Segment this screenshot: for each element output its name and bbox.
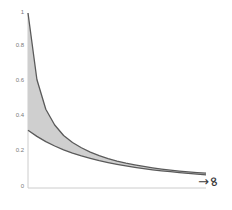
x-axis-infinity-annotation: →∞ <box>198 175 220 188</box>
y-tick-label: 0.4 <box>8 112 24 119</box>
y-tick-label: 0 <box>8 183 24 190</box>
decay-curve-chart: 1 0.8 0.6 0.4 0.2 0 →∞ <box>0 0 232 210</box>
shaded-band-between-curves <box>28 13 206 175</box>
upper-bound-curve <box>28 13 206 173</box>
infinity-icon: ∞ <box>207 175 222 188</box>
y-tick-label: 0.6 <box>8 77 24 84</box>
y-tick-label: 0.2 <box>8 147 24 154</box>
data-group <box>28 13 206 175</box>
y-tick-label: 1 <box>8 9 24 16</box>
y-tick-label: 0.8 <box>8 42 24 49</box>
